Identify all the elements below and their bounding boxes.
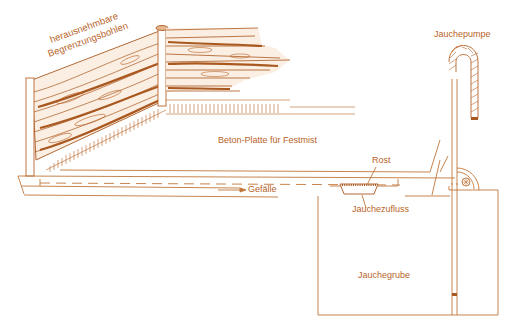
manure-storage-diagram <box>0 0 517 333</box>
pump <box>449 45 479 315</box>
back-board-wall <box>166 28 290 92</box>
label-slope: Gefälle <box>248 184 277 194</box>
slope-arrow-icon <box>218 188 246 192</box>
grate <box>340 167 378 208</box>
label-manure-pit: Jauchegrube <box>358 270 410 280</box>
label-grate: Rost <box>372 155 391 165</box>
label-inflow: Jauchezufluss <box>352 204 409 214</box>
label-pump: Jauchepumpe <box>434 29 491 39</box>
label-concrete-slab: Beton-Platte für Festmist <box>218 135 317 145</box>
concrete-slab <box>18 140 455 197</box>
